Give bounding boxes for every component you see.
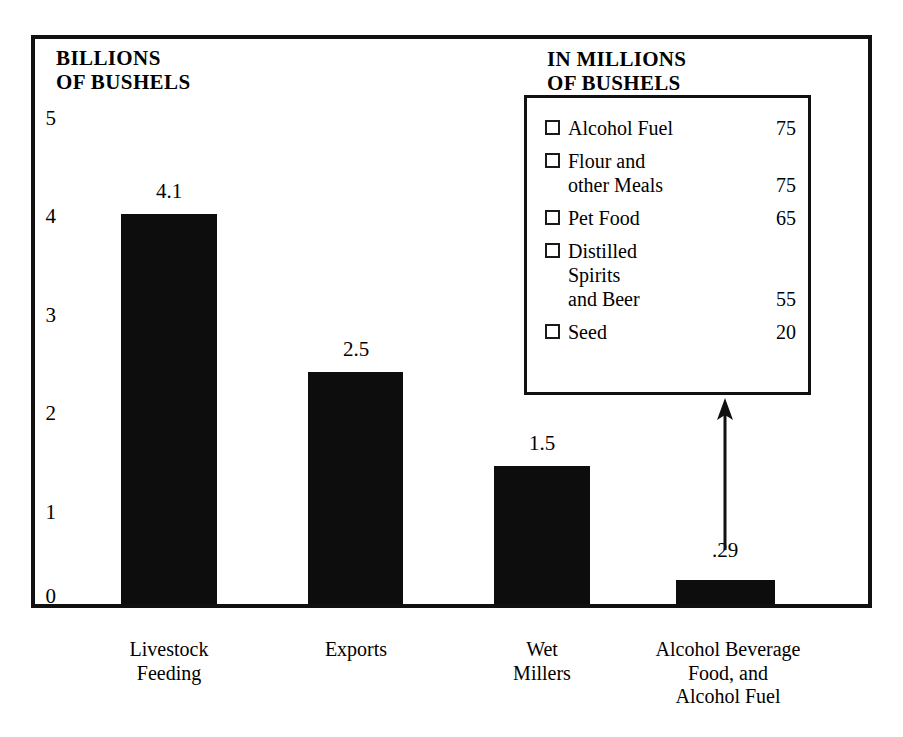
bar-exports bbox=[308, 372, 403, 604]
legend-item-value: 20 bbox=[762, 320, 796, 344]
up-arrow-icon bbox=[700, 398, 750, 550]
empty-square-icon bbox=[545, 210, 560, 225]
y-tick-3: 3 bbox=[26, 305, 56, 326]
bar-category-exports: Exports bbox=[286, 638, 426, 662]
empty-square-icon bbox=[545, 153, 560, 168]
annotation-arrow bbox=[700, 398, 750, 550]
legend-item-distilled-spirits-and-beer[interactable]: Distilled Spirits and Beer 55 bbox=[545, 239, 796, 311]
legend-item-seed[interactable]: Seed 20 bbox=[545, 320, 796, 344]
y-tick-4: 4 bbox=[26, 206, 56, 227]
legend-item-flour-and-other-meals[interactable]: Flour and other Meals 75 bbox=[545, 149, 796, 197]
bar-value-livestock-feeding: 4.1 bbox=[119, 181, 219, 202]
legend-item-label: Seed bbox=[568, 320, 762, 344]
legend-item-pet-food[interactable]: Pet Food 65 bbox=[545, 206, 796, 230]
legend-box: Alcohol Fuel 75 Flour and other Meals 75… bbox=[524, 95, 811, 395]
legend-item-value: 55 bbox=[762, 287, 796, 311]
legend-item-label: Alcohol Fuel bbox=[568, 116, 762, 140]
legend-item-value: 75 bbox=[762, 173, 796, 197]
bar-category-alcohol-beverage-food-fuel: Alcohol Beverage Food, and Alcohol Fuel bbox=[633, 638, 823, 709]
y-tick-0: 0 bbox=[26, 586, 56, 607]
y-axis-caption: BILLIONS OF BUSHELS bbox=[56, 47, 191, 94]
legend-item-label: Flour and other Meals bbox=[568, 149, 762, 197]
legend-list: Alcohol Fuel 75 Flour and other Meals 75… bbox=[545, 116, 796, 353]
chart-canvas: BILLIONS OF BUSHELS 5 4 3 2 1 0 4.1 Live… bbox=[0, 0, 903, 737]
bar-livestock-feeding bbox=[121, 214, 217, 604]
legend-item-value: 65 bbox=[762, 206, 796, 230]
bar-wet-millers bbox=[494, 466, 590, 604]
legend-item-alcohol-fuel[interactable]: Alcohol Fuel 75 bbox=[545, 116, 796, 140]
empty-square-icon bbox=[545, 243, 560, 258]
y-tick-2: 2 bbox=[26, 403, 56, 424]
y-tick-1: 1 bbox=[26, 502, 56, 523]
legend-item-label: Distilled Spirits and Beer bbox=[568, 239, 762, 311]
bar-alcohol-beverage-food-fuel bbox=[676, 580, 775, 604]
y-tick-5: 5 bbox=[26, 108, 56, 129]
bar-category-livestock-feeding: Livestock Feeding bbox=[99, 638, 239, 685]
legend-caption: IN MILLIONS OF BUSHELS bbox=[547, 48, 686, 95]
empty-square-icon bbox=[545, 324, 560, 339]
bar-value-wet-millers: 1.5 bbox=[492, 433, 592, 454]
bar-value-exports: 2.5 bbox=[306, 339, 406, 360]
empty-square-icon bbox=[545, 120, 560, 135]
legend-item-value: 75 bbox=[762, 116, 796, 140]
bar-category-wet-millers: Wet Millers bbox=[472, 638, 612, 685]
legend-item-label: Pet Food bbox=[568, 206, 762, 230]
